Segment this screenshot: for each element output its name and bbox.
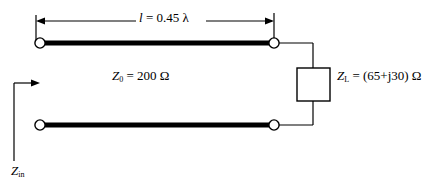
bottom-left-terminal xyxy=(35,120,45,130)
lambda-symbol: λ xyxy=(182,10,188,25)
input-impedance-label: Zin xyxy=(11,164,25,177)
z0-subscript: 0 xyxy=(119,75,123,84)
diagram-canvas xyxy=(0,0,437,192)
length-label: l = 0.45 λ xyxy=(139,11,189,24)
transmission-line-diagram: l = 0.45 λ Z0 = 200 Ω ZL = (65+j30) Ω Zi… xyxy=(0,0,437,192)
bottom-right-terminal xyxy=(269,120,279,130)
ohm-symbol-z0: Ω xyxy=(160,68,170,83)
length-symbol: l xyxy=(139,10,143,25)
load-impedance-box xyxy=(297,68,330,101)
length-equals: = xyxy=(146,10,153,25)
load-impedance-label: ZL = (65+j30) Ω xyxy=(337,69,422,82)
z0-value: 200 xyxy=(137,68,157,83)
dimension-arrowhead-right xyxy=(265,17,274,24)
ohm-symbol-zl: Ω xyxy=(412,68,422,83)
characteristic-impedance-label: Z0 = 200 Ω xyxy=(112,69,170,82)
zl-value: (65+j30) xyxy=(363,68,409,83)
dimension-arrowhead-left xyxy=(36,17,45,24)
length-value: 0.45 xyxy=(156,10,179,25)
input-impedance-arrow xyxy=(14,79,40,161)
input-impedance-arrowhead xyxy=(31,79,40,86)
zl-equals: = xyxy=(352,68,359,83)
zin-subscript: in xyxy=(18,170,24,179)
z0-equals: = xyxy=(127,68,134,83)
zl-subscript: L xyxy=(344,75,349,84)
top-right-terminal xyxy=(269,38,279,48)
top-left-terminal xyxy=(35,38,45,48)
